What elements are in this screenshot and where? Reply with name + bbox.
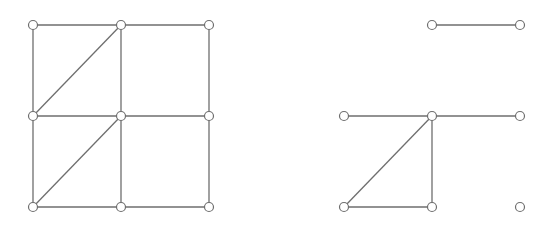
node-c xyxy=(205,21,214,30)
node-g xyxy=(29,203,38,212)
node-a xyxy=(29,21,38,30)
edge-g-e xyxy=(33,116,121,207)
node-b xyxy=(117,21,126,30)
edge-g-e xyxy=(344,116,432,207)
node-b xyxy=(428,21,437,30)
node-d xyxy=(340,112,349,121)
node-g xyxy=(340,203,349,212)
node-f xyxy=(205,112,214,121)
node-c xyxy=(516,21,525,30)
grid-graph xyxy=(29,21,214,212)
node-i xyxy=(205,203,214,212)
node-f xyxy=(516,112,525,121)
node-h xyxy=(428,203,437,212)
node-e xyxy=(117,112,126,121)
node-i xyxy=(516,203,525,212)
node-d xyxy=(29,112,38,121)
node-e xyxy=(428,112,437,121)
graph-diagram xyxy=(0,0,555,230)
edge-d-b xyxy=(33,25,121,116)
subgraph xyxy=(340,21,525,212)
node-h xyxy=(117,203,126,212)
